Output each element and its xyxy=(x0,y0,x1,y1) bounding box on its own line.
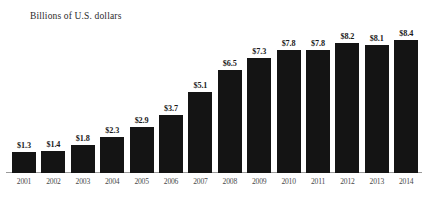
bar-column: $7.8 xyxy=(277,24,301,173)
x-axis-tick-label: 2005 xyxy=(130,177,154,186)
bar: $5.1 xyxy=(188,92,212,173)
x-axis-tick-label: 2007 xyxy=(188,177,212,186)
bar-column: $8.1 xyxy=(365,24,389,173)
bar-value-label: $6.5 xyxy=(223,59,237,68)
bar-value-label: $8.4 xyxy=(399,29,413,38)
x-axis-tick-label: 2006 xyxy=(159,177,183,186)
bar: $2.9 xyxy=(130,127,154,173)
bar-column: $1.8 xyxy=(71,24,95,173)
bar: $8.1 xyxy=(365,45,389,173)
bar: $7.8 xyxy=(306,50,330,173)
x-axis-tick-label: 2008 xyxy=(218,177,242,186)
bar: $8.4 xyxy=(394,40,418,173)
bar-column: $8.2 xyxy=(335,24,359,173)
bar-value-label: $8.1 xyxy=(370,34,384,43)
bar-column: $2.3 xyxy=(100,24,124,173)
x-axis-line xyxy=(6,172,422,173)
bar: $1.4 xyxy=(41,151,65,173)
bar: $6.5 xyxy=(218,70,242,173)
bar-column: $8.4 xyxy=(394,24,418,173)
x-axis-tick-label: 2011 xyxy=(306,177,330,186)
bar: $1.8 xyxy=(71,145,95,173)
bar-value-label: $1.3 xyxy=(17,141,31,150)
bar-column: $5.1 xyxy=(188,24,212,173)
bar-column: $7.3 xyxy=(247,24,271,173)
bar-value-label: $7.8 xyxy=(282,39,296,48)
bar: $7.3 xyxy=(247,58,271,173)
x-axis-tick-label: 2009 xyxy=(247,177,271,186)
bar-value-label: $5.1 xyxy=(193,81,207,90)
bar-column: $6.5 xyxy=(218,24,242,173)
bar-value-label: $1.8 xyxy=(76,134,90,143)
bar: $7.8 xyxy=(277,50,301,173)
x-axis-tick-label: 2014 xyxy=(394,177,418,186)
bar-value-label: $7.8 xyxy=(311,39,325,48)
bar-value-label: $7.3 xyxy=(252,47,266,56)
x-axis-tick-label: 2004 xyxy=(100,177,124,186)
bar-column: $3.7 xyxy=(159,24,183,173)
bar-value-label: $1.4 xyxy=(46,140,60,149)
x-axis-tick-label: 2003 xyxy=(71,177,95,186)
bar: $3.7 xyxy=(159,115,183,173)
bar-column: $1.4 xyxy=(41,24,65,173)
bar-value-label: $2.3 xyxy=(105,126,119,135)
bar-column: $1.3 xyxy=(12,24,36,173)
bar-column: $7.8 xyxy=(306,24,330,173)
bar-value-label: $3.7 xyxy=(164,104,178,113)
bar-column: $2.9 xyxy=(130,24,154,173)
bar: $1.3 xyxy=(12,152,36,173)
bar-value-label: $8.2 xyxy=(340,32,354,41)
x-axis-tick-label: 2010 xyxy=(277,177,301,186)
x-axis-tick-label: 2001 xyxy=(12,177,36,186)
bar-value-label: $2.9 xyxy=(135,116,149,125)
bar: $8.2 xyxy=(335,43,359,173)
x-axis-tick-label: 2013 xyxy=(365,177,389,186)
bar: $2.3 xyxy=(100,137,124,173)
bar-chart: Billions of U.S. dollars $1.3$1.4$1.8$2.… xyxy=(0,0,428,197)
x-axis-tick-label: 2002 xyxy=(41,177,65,186)
x-axis-tick-label: 2012 xyxy=(335,177,359,186)
